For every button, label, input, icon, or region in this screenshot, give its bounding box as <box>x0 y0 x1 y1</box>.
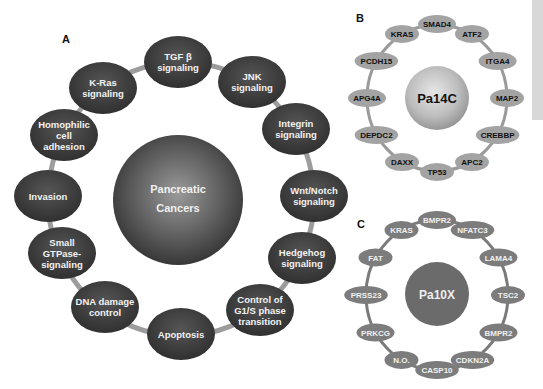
pa10x-label: Pa10X <box>419 288 455 302</box>
pa10x-gene-bmpr2: BMPR2 <box>479 324 517 342</box>
pathway-node-label: Wnt/Notchsignaling <box>290 185 338 207</box>
pa14c-gene-kras: KRAS <box>385 25 419 43</box>
gene-label: KRAS <box>391 30 414 39</box>
pathway-node-hedgehog: Hedgehogsignaling <box>268 232 336 284</box>
pathway-diagram: TGF βsignalingJNKsignalingIntegrinsignal… <box>0 0 543 389</box>
pathway-node-jnk: JNKsignaling <box>218 56 286 108</box>
pathway-node-label: Integrinsignaling <box>275 118 317 140</box>
gene-label: NFATC3 <box>457 226 488 235</box>
pa10x-gene-prkcg: PRKCG <box>357 324 395 342</box>
pa14c-gene-daxx: DAXX <box>385 153 419 171</box>
pa10x-gene-prss23: PRSS23 <box>344 286 388 304</box>
panel-b: SMAD4ATF2ITGA4MAP2CREBBPAPC2TP53DAXXDEPD… <box>348 15 524 181</box>
pa10x-gene-nfatc3: NFATC3 <box>451 221 495 239</box>
pa14c-gene-tp53: TP53 <box>420 163 454 181</box>
pathway-node-homophilic: Homophiliccelladhesion <box>30 109 98 161</box>
pathway-node-small: SmallGTPase-signaling <box>28 227 96 279</box>
pa10x-gene-lama4: LAMA4 <box>479 249 517 267</box>
pa14c-gene-smad4: SMAD4 <box>418 15 456 33</box>
gene-label: BMPR2 <box>484 329 513 338</box>
pa10x-gene-casp10: CASP10 <box>415 361 459 379</box>
pathway-node-integrin: Integrinsignaling <box>262 103 330 155</box>
gene-label: ITGA4 <box>486 57 510 66</box>
pa10x-gene-cdkn2a: CDKN2A <box>451 351 495 369</box>
pa10x-gene-tsc2: TSC2 <box>491 286 525 304</box>
gene-label: APC2 <box>461 158 483 167</box>
gene-label: DAXX <box>391 158 414 167</box>
gene-label: FAT <box>368 254 383 263</box>
pa14c-gene-depdc2: DEPDC2 <box>355 126 399 144</box>
pa14c-gene-map2: MAP2 <box>490 89 524 107</box>
gene-label: DEPDC2 <box>360 131 393 140</box>
pathway-node-control-of: Control ofG1/S phasetransition <box>226 284 294 336</box>
pa14c-label: Pa14C <box>417 91 457 106</box>
gene-label: APG4A <box>353 94 381 103</box>
pa14c-gene-crebbp: CREBBP <box>476 126 520 144</box>
gene-label: KRAS <box>390 226 413 235</box>
pathway-node-dna-damage: DNA damagecontrol <box>71 281 139 333</box>
pa10x-gene-kras: KRAS <box>385 221 419 239</box>
pathway-node-k-ras: K-Rassignaling <box>69 62 137 114</box>
gene-label: TSC2 <box>498 291 519 300</box>
pancreatic-cancers-sphere <box>113 135 243 265</box>
gene-label: MAP2 <box>496 94 519 103</box>
panel-c: BMPR2NFATC3LAMA4TSC2BMPR2CDKN2ACASP10N.O… <box>344 211 525 379</box>
gene-label: ATF2 <box>462 30 482 39</box>
gene-label: CREBBP <box>481 131 515 140</box>
pathway-node-label: Invasion <box>29 191 68 202</box>
pa14c-gene-itga4: ITGA4 <box>479 52 517 70</box>
pa10x-gene-n-o: N.O. <box>385 351 419 369</box>
gene-label: CDKN2A <box>456 356 490 365</box>
pa14c-gene-apc2: APC2 <box>455 153 489 171</box>
pathway-node-wnt-notch: Wnt/Notchsignaling <box>280 170 348 222</box>
gene-label: LAMA4 <box>485 254 513 263</box>
gene-label: N.O. <box>393 356 409 365</box>
pa14c-gene-atf2: ATF2 <box>455 25 489 43</box>
pa14c-gene-apg4a: APG4A <box>348 89 386 107</box>
pathway-node-label: Control ofG1/S phasetransition <box>234 294 286 327</box>
pathway-node-tgf: TGF βsignaling <box>144 36 212 88</box>
pathway-node-label: Apoptosis <box>158 329 204 340</box>
gene-label: BMPR2 <box>423 216 452 225</box>
gene-label: PRSS23 <box>351 291 382 300</box>
pathway-node-apoptosis: Apoptosis <box>147 308 215 360</box>
pathway-node-label: Hedgehogsignaling <box>279 247 326 269</box>
gene-label: SMAD4 <box>423 20 452 29</box>
panel-a: TGF βsignalingJNKsignalingIntegrinsignal… <box>14 36 348 360</box>
pa14c-gene-pcdh15: PCDH15 <box>355 52 399 70</box>
pa10x-gene-fat: FAT <box>359 249 393 267</box>
gene-label: PCDH15 <box>361 57 393 66</box>
gene-label: PRKCG <box>361 329 390 338</box>
pathway-node-invasion: Invasion <box>14 170 82 222</box>
gene-label: TP53 <box>427 168 447 177</box>
pa10x-gene-bmpr2: BMPR2 <box>418 211 456 229</box>
gene-label: CASP10 <box>421 366 453 375</box>
